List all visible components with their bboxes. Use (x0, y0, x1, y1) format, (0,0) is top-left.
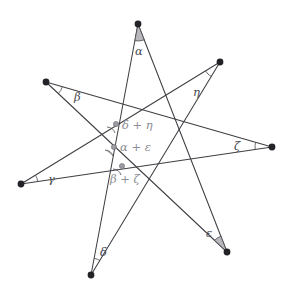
angle-label-beta: β (74, 92, 81, 104)
interior-sum-label-delta-plus-eta: δ + η (122, 120, 153, 132)
angle-label-zeta: ζ (234, 141, 240, 153)
interior-sum-label-beta-plus-zeta: β + ζ (110, 174, 140, 186)
angle-label-delta: δ (100, 247, 107, 259)
angle-arc-delta (94, 258, 100, 260)
interior-angle-arc-alpha-plus-eps (105, 150, 113, 156)
star-edge-epsilon-to-alpha (138, 24, 227, 252)
angle-label-epsilon: ε (206, 228, 212, 240)
vertex-dot-gamma (18, 181, 25, 188)
angle-label-alpha: α (135, 46, 143, 58)
angle-label-gamma: γ (48, 174, 55, 186)
inner-vertex-dot-delta-plus-eta (113, 121, 118, 126)
angle-arc-gamma (35, 175, 37, 181)
vertex-dot-alpha (135, 21, 142, 28)
vertex-dot-delta (88, 272, 95, 279)
inner-vertex-dot-beta-plus-zeta (119, 163, 124, 168)
star-edge-delta-to-eta (91, 62, 220, 275)
angle-arc-beta (58, 87, 62, 94)
vertex-dot-epsilon (224, 249, 231, 256)
vertex-dot-beta (43, 79, 50, 86)
angle-arc-eta (206, 71, 212, 77)
vertex-dot-eta (217, 59, 224, 66)
angle-label-eta: η (193, 87, 200, 99)
star-polygon-figure: αβγδεζηδ + ηα + εβ + ζ (0, 0, 290, 298)
interior-sum-label-alpha-plus-eps: α + ε (120, 142, 151, 154)
angle-arc-zeta (255, 142, 256, 149)
inner-vertex-dot-alpha-plus-eps (111, 144, 116, 149)
vertex-dot-zeta (269, 144, 276, 151)
